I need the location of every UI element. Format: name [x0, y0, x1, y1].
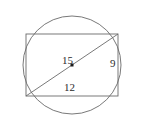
- right-side-length-label: 9: [110, 58, 116, 69]
- geometry-figure: 15 9 12: [0, 0, 143, 130]
- diagonal-length-label: 15: [62, 55, 73, 66]
- bottom-side-length-label: 12: [64, 82, 75, 93]
